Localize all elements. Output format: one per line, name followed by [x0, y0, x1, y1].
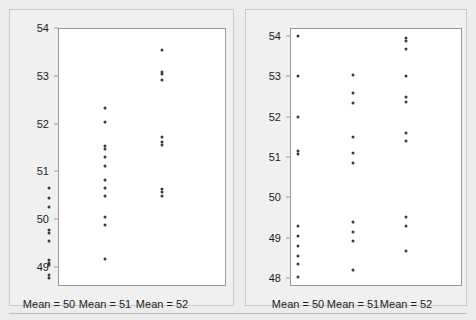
y-axis-tick-label: 52: [269, 111, 281, 123]
data-point: [352, 220, 355, 223]
data-point: [104, 186, 107, 189]
data-point: [104, 215, 107, 218]
data-point: [297, 262, 300, 265]
data-point: [405, 215, 408, 218]
data-point: [48, 277, 51, 280]
data-point: [405, 100, 408, 103]
data-point: [104, 224, 107, 227]
x-axis-category-label: Mean = 51: [79, 298, 131, 310]
y-axis-tick-mark: [54, 28, 58, 29]
left-plot-area: [58, 28, 226, 286]
data-point: [352, 231, 355, 234]
data-point: [352, 268, 355, 271]
data-point: [297, 225, 300, 228]
y-axis-tick-mark: [286, 116, 290, 117]
y-axis-tick-label: 51: [37, 165, 49, 177]
data-point: [104, 121, 107, 124]
y-axis-tick-mark: [286, 197, 290, 198]
data-point: [48, 196, 51, 199]
left-panel: 495051525354Mean = 50Mean = 51Mean = 52: [9, 9, 234, 306]
data-point: [297, 235, 300, 238]
y-axis-tick-mark: [286, 76, 290, 77]
x-axis-category-label: Mean = 50: [272, 298, 324, 310]
data-point: [405, 131, 408, 134]
x-axis-category-label: Mean = 51: [327, 298, 379, 310]
y-axis-tick-mark: [286, 157, 290, 158]
y-axis-tick-mark: [54, 123, 58, 124]
data-point: [104, 148, 107, 151]
x-axis-category-label: Mean = 52: [136, 298, 188, 310]
data-point: [161, 48, 164, 51]
x-axis-category-label: Mean = 50: [23, 298, 75, 310]
y-axis-tick-mark: [286, 237, 290, 238]
data-point: [48, 228, 51, 231]
y-axis-tick-mark: [54, 219, 58, 220]
dotplot-figure: 495051525354Mean = 50Mean = 51Mean = 52 …: [0, 0, 476, 320]
data-point: [352, 162, 355, 165]
y-axis-tick-mark: [286, 36, 290, 37]
y-axis-tick-label: 50: [37, 213, 49, 225]
y-axis-tick-label: 54: [269, 30, 281, 42]
data-point: [405, 39, 408, 42]
data-point: [104, 107, 107, 110]
data-point: [104, 258, 107, 261]
data-point: [405, 96, 408, 99]
data-point: [161, 135, 164, 138]
data-point: [405, 139, 408, 142]
data-point: [297, 152, 300, 155]
data-point: [104, 165, 107, 168]
right-plot-area: [290, 28, 462, 286]
data-point: [104, 156, 107, 159]
data-point: [352, 101, 355, 104]
y-axis-tick-label: 53: [269, 70, 281, 82]
y-axis-tick-label: 48: [269, 272, 281, 284]
data-point: [352, 91, 355, 94]
data-point: [297, 75, 300, 78]
data-point: [161, 73, 164, 76]
y-axis-tick-label: 54: [37, 22, 49, 34]
right-panel: 48495051525354Mean = 50Mean = 51Mean = 5…: [245, 9, 467, 306]
data-point: [352, 151, 355, 154]
data-point: [48, 239, 51, 242]
data-point: [297, 245, 300, 248]
data-point: [161, 78, 164, 81]
data-point: [352, 135, 355, 138]
y-axis-tick-mark: [54, 171, 58, 172]
data-point: [352, 239, 355, 242]
data-point: [161, 144, 164, 147]
data-point: [405, 249, 408, 252]
y-axis-tick-label: 53: [37, 70, 49, 82]
data-point: [104, 178, 107, 181]
y-axis-tick-label: 51: [269, 151, 281, 163]
data-point: [297, 115, 300, 118]
data-point: [161, 194, 164, 197]
data-point: [104, 194, 107, 197]
data-point: [297, 35, 300, 38]
data-point: [297, 254, 300, 257]
y-axis-tick-mark: [54, 75, 58, 76]
x-axis-category-label: Mean = 52: [380, 298, 432, 310]
y-axis-tick-label: 50: [269, 191, 281, 203]
y-axis-tick-mark: [286, 277, 290, 278]
data-point: [405, 75, 408, 78]
y-axis-tick-label: 49: [269, 232, 281, 244]
data-point: [48, 187, 51, 190]
data-point: [352, 74, 355, 77]
data-point: [48, 264, 51, 267]
data-point: [405, 47, 408, 50]
data-point: [405, 224, 408, 227]
data-point: [48, 206, 51, 209]
data-point: [297, 275, 300, 278]
footer-divider: [9, 313, 467, 314]
data-point: [48, 232, 51, 235]
y-axis-tick-label: 52: [37, 118, 49, 130]
y-axis-tick-mark: [54, 266, 58, 267]
